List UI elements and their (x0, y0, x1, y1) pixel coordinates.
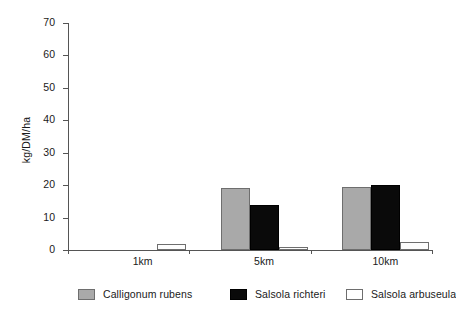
x-tick-label: 10km (372, 255, 398, 267)
x-tick-mark (311, 250, 312, 254)
legend-swatch (346, 289, 363, 300)
y-axis-line (68, 23, 69, 250)
y-tick-label: 60 (43, 48, 55, 60)
y-tick-mark (63, 55, 68, 56)
x-tick-mark (189, 250, 190, 254)
y-tick-mark (63, 218, 68, 219)
bar (400, 242, 429, 250)
legend-label: Salsola arbuseula (371, 288, 456, 300)
bar (221, 188, 250, 250)
y-tick-label: 50 (43, 81, 55, 93)
y-tick-label: 10 (43, 211, 55, 223)
legend-entry: Salsola arbuseula (346, 286, 456, 302)
chart-legend: Calligonum rubensSalsola richteriSalsola… (68, 286, 438, 306)
legend-entry: Salsola richteri (230, 286, 325, 302)
y-tick-mark (63, 153, 68, 154)
x-axis-line (63, 250, 432, 251)
bar (342, 187, 371, 250)
y-tick: 70 (63, 23, 68, 24)
legend-swatch (78, 289, 95, 300)
legend-swatch (230, 289, 247, 300)
legend-label: Calligonum rubens (103, 288, 192, 300)
y-tick: 20 (63, 185, 68, 186)
bar (371, 185, 400, 250)
y-tick-label: 70 (43, 16, 55, 28)
y-tick-mark (63, 23, 68, 24)
y-tick-mark (63, 185, 68, 186)
plot-area: 010203040506070 1km5km10km (68, 23, 432, 250)
y-tick: 60 (63, 55, 68, 56)
y-tick-label: 20 (43, 178, 55, 190)
y-tick: 10 (63, 218, 68, 219)
bar (279, 247, 308, 250)
legend-label: Salsola richteri (255, 288, 325, 300)
x-tick-mark (68, 250, 69, 254)
y-tick: 40 (63, 120, 68, 121)
y-tick: 30 (63, 153, 68, 154)
x-tick-label: 1km (133, 255, 153, 267)
y-tick: 50 (63, 88, 68, 89)
y-tick-mark (63, 120, 68, 121)
y-tick-label: 0 (49, 243, 55, 255)
y-tick-label: 30 (43, 146, 55, 158)
y-tick-mark (63, 88, 68, 89)
bar (157, 244, 186, 250)
x-tick-mark (432, 250, 433, 254)
x-tick-label: 5km (254, 255, 274, 267)
y-axis-label: kg/DM/ha (20, 80, 34, 200)
y-tick-label: 40 (43, 113, 55, 125)
legend-entry: Calligonum rubens (78, 286, 192, 302)
bar (250, 205, 279, 250)
